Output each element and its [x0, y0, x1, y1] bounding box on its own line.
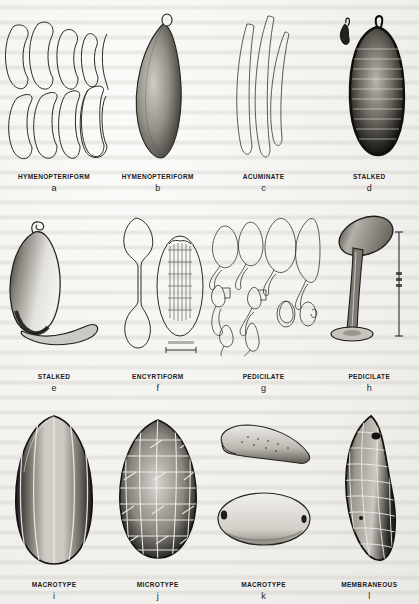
panel-h-letter-label: h: [348, 384, 390, 393]
panel-c-letter-label: c: [243, 184, 285, 193]
panel-e-type-label: STALKED: [38, 374, 71, 382]
figure-plate: HYMENOPTERIFORM a: [0, 0, 419, 604]
pedicilate-egg-tall-stalk-icon: [320, 196, 419, 374]
panel-j-type-label: MICROTYPE: [137, 582, 179, 590]
panel-f-caption: ENCYRTIFORM f: [132, 374, 184, 396]
panel-d-letter-label: d: [353, 184, 386, 193]
macrotype-egg-two-views-icon: [208, 396, 320, 582]
panel-a: HYMENOPTERIFORM a: [0, 0, 108, 196]
panel-k-letter-label: k: [241, 592, 286, 601]
hymenopteriform-egg-stippled-icon: [108, 0, 208, 174]
pedicilate-egg-outlines-icon: [208, 196, 320, 374]
panel-k-caption: MACROTYPE k: [241, 582, 286, 604]
panel-g-letter-label: g: [243, 384, 285, 393]
hymenopteriform-egg-outlines-icon: [0, 0, 108, 174]
microtype-egg-reticulate-icon: [108, 396, 208, 582]
panel-e: STALKED e: [0, 196, 108, 396]
panel-d-caption: STALKED d: [353, 174, 386, 196]
panel-h-caption: PEDICILATE h: [348, 374, 390, 396]
panel-b-letter-label: b: [122, 184, 194, 193]
panel-grid: HYMENOPTERIFORM a: [0, 0, 419, 604]
panel-j-caption: MICROTYPE j: [137, 582, 179, 604]
panel-g-type-label: PEDICILATE: [243, 374, 285, 382]
panel-i-letter-label: i: [32, 592, 77, 601]
panel-l-caption: MEMBRANEOUS l: [341, 582, 397, 604]
acuminate-egg-outlines-icon: [208, 0, 320, 174]
encyrtiform-egg-pair-icon: [108, 196, 208, 374]
panel-l-letter-label: l: [341, 592, 397, 601]
panel-l-type-label: MEMBRANEOUS: [341, 582, 397, 590]
panel-k-type-label: MACROTYPE: [241, 582, 286, 590]
panel-e-letter-label: e: [38, 384, 71, 393]
panel-f-type-label: ENCYRTIFORM: [132, 374, 184, 382]
scale-bar: [395, 232, 403, 336]
stalked-egg-long-pedicel-icon: [0, 196, 108, 374]
panel-c-type-label: ACUMINATE: [243, 174, 285, 182]
panel-i-caption: MACROTYPE i: [32, 582, 77, 604]
panel-d-type-label: STALKED: [353, 174, 386, 182]
panel-e-caption: STALKED e: [38, 374, 71, 396]
panel-a-caption: HYMENOPTERIFORM a: [18, 174, 90, 196]
stalked-egg-ridged-icon: [320, 0, 419, 174]
panel-c: ACUMINATE c: [208, 0, 320, 196]
panel-j-letter-label: j: [137, 592, 179, 601]
macrotype-egg-ribbed-icon: [0, 396, 108, 582]
panel-d: STALKED d: [320, 0, 419, 196]
panel-h: PEDICILATE h: [320, 196, 419, 396]
panel-i-type-label: MACROTYPE: [32, 582, 77, 590]
panel-l: MEMBRANEOUS l: [320, 396, 419, 604]
panel-c-caption: ACUMINATE c: [243, 174, 285, 196]
panel-f: ENCYRTIFORM f: [108, 196, 208, 396]
membraneous-egg-reticulate-icon: [320, 396, 419, 582]
panel-k: MACROTYPE k: [208, 396, 320, 604]
panel-a-letter-label: a: [18, 184, 90, 193]
panel-a-type-label: HYMENOPTERIFORM: [18, 174, 90, 182]
panel-b-type-label: HYMENOPTERIFORM: [122, 174, 194, 182]
panel-b-caption: HYMENOPTERIFORM b: [122, 174, 194, 196]
panel-i: MACROTYPE i: [0, 396, 108, 604]
scale-bar: [166, 341, 196, 353]
panel-h-type-label: PEDICILATE: [348, 374, 390, 382]
panel-g: PEDICILATE g: [208, 196, 320, 396]
panel-f-letter-label: f: [132, 384, 184, 393]
panel-g-caption: PEDICILATE g: [243, 374, 285, 396]
panel-j: MICROTYPE j: [108, 396, 208, 604]
panel-b: HYMENOPTERIFORM b: [108, 0, 208, 196]
